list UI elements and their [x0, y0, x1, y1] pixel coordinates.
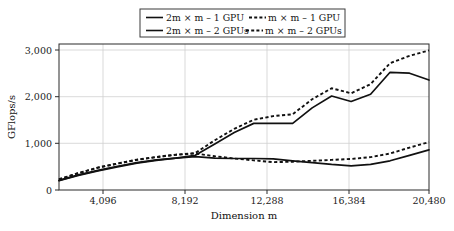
x-tick-label-8192: 8,192 [171, 195, 198, 206]
legend-label-2m-x-m-2-gpus: 2m × m – 2 GPUs [166, 25, 249, 36]
x-axis-title: Dimension m [211, 210, 278, 221]
x-tick-label-12288: 12,288 [250, 195, 283, 206]
y-tick-label-0: 0 [46, 185, 52, 196]
legend-label-m-x-m-2-gpus: m × m – 2 GPUs [265, 25, 342, 36]
gflops-line-chart: 3,000 2,000 1,000 0 4,096 8,192 12,288 1… [0, 0, 454, 231]
y-tick-label-1000: 1,000 [25, 138, 52, 149]
x-tick-label-20480: 20,480 [412, 195, 445, 206]
legend-label-2m-x-m-1-gpu: 2m × m – 1 GPU [166, 12, 244, 23]
y-tick-label-3000: 3,000 [25, 45, 52, 56]
chart-figure: 3,000 2,000 1,000 0 4,096 8,192 12,288 1… [0, 0, 454, 231]
x-tick-label-4096: 4,096 [89, 195, 116, 206]
y-axis-title: GFlops/s [6, 95, 17, 139]
legend-label-m-x-m-1-gpu: m × m – 1 GPU [268, 12, 340, 23]
x-tick-label-16384: 16,384 [332, 195, 365, 206]
y-tick-label-2000: 2,000 [25, 91, 52, 102]
chart-legend: 2m × m – 1 GPU m × m – 1 GPU 2m × m – 2 … [140, 9, 345, 37]
